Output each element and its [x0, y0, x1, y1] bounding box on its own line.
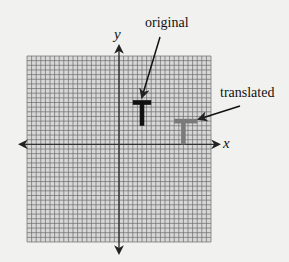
translation-figure: x y original translated	[0, 0, 289, 262]
translated-label: translated	[220, 85, 274, 100]
y-axis-label: y	[112, 26, 121, 42]
x-axis-label: x	[222, 135, 230, 151]
original-t-stem	[140, 103, 145, 126]
translated-t-stem	[181, 121, 186, 144]
original-label: original	[145, 15, 189, 30]
